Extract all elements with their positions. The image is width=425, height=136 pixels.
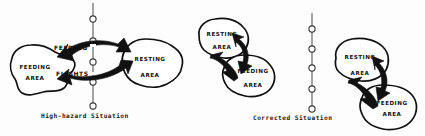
feeding-area-lower-label-line2: AREA (234, 82, 272, 88)
resting-area-upper-label-line2: AREA (203, 44, 241, 50)
resting-area-right-label-line2: AREA (131, 72, 169, 78)
panel-corrected-left (199, 13, 315, 112)
insulator-icon (309, 26, 315, 32)
insulator-icon (309, 65, 315, 71)
transmission-line-left (90, 3, 96, 110)
resting-area-right-label-line1: RESTING (131, 56, 169, 62)
corrected-caption: Corrected Situation (253, 114, 332, 121)
resting-area-upper-label-line1: RESTING (203, 31, 241, 37)
insulator-icon (90, 59, 96, 65)
feeding-flight-label-line2: FLIGHTS (56, 70, 89, 77)
insulator-icon (309, 106, 315, 112)
high-hazard-caption: High-hazard Situation (41, 112, 129, 119)
feeding-flight-label-line1: FEEDING (54, 44, 88, 51)
feeding-area-lower-label-line1: FEEDING (234, 68, 272, 74)
insulator-icon (90, 16, 96, 22)
feeding-area-left-label-line1: FEEDING (16, 64, 54, 70)
insulator-icon (90, 103, 96, 109)
insulator-icon (309, 86, 315, 92)
feeding-area-left-label-line2: AREA (16, 75, 54, 81)
line-gap-mask (90, 44, 96, 47)
figure-canvas: FEEDING AREA FEEDING FLIGHTS RESTING ARE… (0, 0, 425, 136)
feeding-area-lower-label-line2-2: AREA (373, 111, 411, 117)
line-gap-mask (90, 72, 96, 75)
resting-area-upper-label-line2-2: AREA (341, 70, 379, 76)
transmission-line-right (309, 13, 315, 112)
insulator-icon (309, 46, 315, 52)
feeding-area-lower-label-line1-2: FEEDING (373, 100, 411, 106)
resting-area-upper-label-line1-2: RESTING (341, 54, 379, 60)
